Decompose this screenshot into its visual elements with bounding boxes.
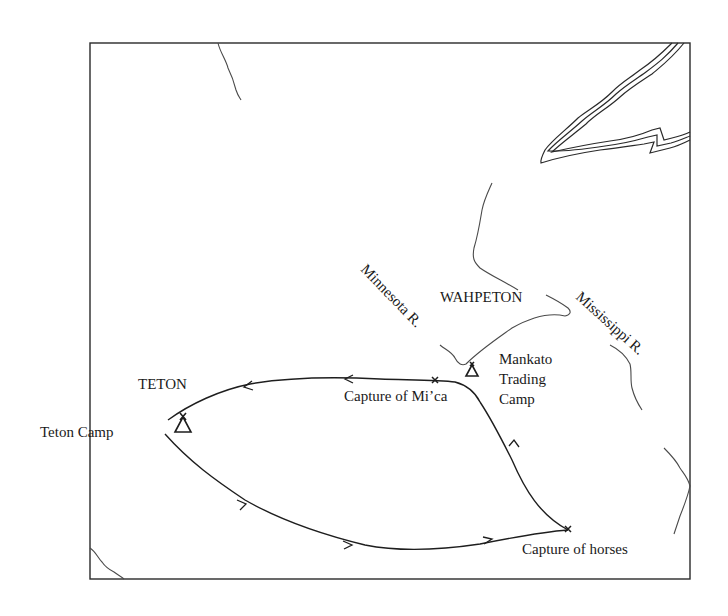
arrow-north [509, 440, 519, 447]
river-upper-mississippi [473, 183, 518, 290]
lake-superior [541, 43, 690, 163]
place-label-capture-mica: Capture of Mi’ca [344, 388, 448, 404]
place-label-mankato-line1: Mankato [499, 351, 552, 367]
arrow-west-1 [244, 381, 253, 390]
river-label-mississippi: Mississippi R. [573, 288, 648, 357]
arrow-east-1 [237, 500, 246, 510]
arrow-west-2 [345, 375, 353, 383]
place-label-teton-camp: Teton Camp [40, 424, 114, 440]
river-label-minnesota: Minnesota R. [358, 261, 426, 330]
river-southwest-corner [90, 548, 124, 579]
river-northwest [218, 43, 241, 100]
place-label-capture-horses: Capture of horses [522, 541, 628, 557]
mankato-camp-tipi-icon [466, 362, 478, 376]
place-label-mankato-line2: Trading [499, 371, 546, 387]
region-label-teton: TETON [138, 376, 187, 392]
arrow-east-2 [343, 541, 352, 549]
place-label-mankato-line3: Camp [499, 391, 535, 407]
teton-camp-tipi-icon [175, 413, 191, 432]
region-label-wahpeton: WAHPETON [440, 289, 522, 305]
route-east-leg [480, 402, 568, 530]
river-east-edge [664, 448, 690, 534]
map-canvas: TETON WAHPETON Minnesota R. Mississippi … [0, 0, 728, 616]
